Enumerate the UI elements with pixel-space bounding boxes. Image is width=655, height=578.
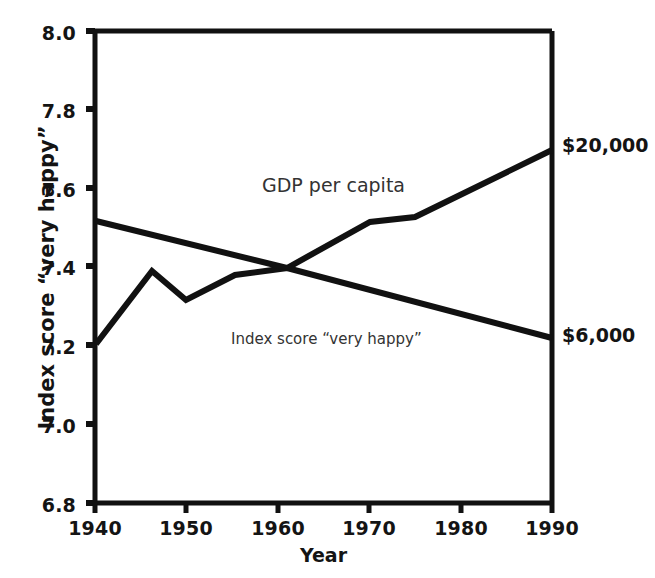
line-chart-canvas [0,0,655,578]
x-axis-title: Year [95,546,552,565]
x-tick-label-1960: 1960 [238,519,318,538]
x-tick-label-1950: 1950 [146,519,226,538]
y-axis-title: Index score “very happy” [37,28,58,528]
end-label-6000: $6,000 [562,326,635,345]
end-label-20000: $20,000 [562,136,649,155]
x-tick-label-1990: 1990 [512,519,592,538]
x-tick-label-1940: 1940 [55,519,135,538]
series-annotation-gdp-per-capita: GDP per capita [262,176,405,195]
axis-frame [95,31,552,503]
x-tick-label-1980: 1980 [421,519,501,538]
chart-figure: 8.0 7.8 7.6 7.4 7.2 7.0 6.8 1940 1950 19… [0,0,655,578]
x-tick-label-1970: 1970 [329,519,409,538]
series-annotation-index-very-happy: Index score “very happy” [231,332,422,347]
